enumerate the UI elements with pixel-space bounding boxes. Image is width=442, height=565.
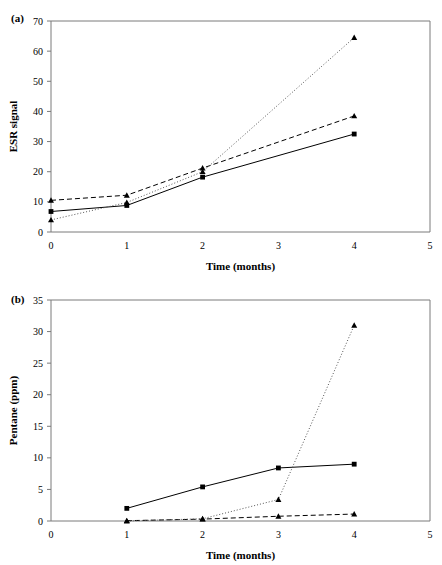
x-tick-label: 1 bbox=[124, 529, 129, 540]
x-tick-label: 5 bbox=[428, 240, 433, 251]
series-line-solid-square bbox=[127, 464, 354, 508]
y-axis-title: ESR signal bbox=[7, 101, 19, 153]
y-tick-label: 10 bbox=[33, 196, 43, 207]
x-tick-label: 0 bbox=[49, 529, 54, 540]
marker-square bbox=[276, 466, 281, 471]
y-tick-label: 35 bbox=[33, 295, 43, 306]
marker-square bbox=[200, 175, 205, 180]
y-tick-label: 10 bbox=[33, 452, 43, 463]
x-tick-label: 1 bbox=[124, 240, 129, 251]
x-axis-title: Time (months) bbox=[206, 260, 275, 273]
marker-triangle bbox=[351, 35, 357, 40]
series-line-dashed-triangle bbox=[51, 116, 354, 200]
marker-triangle bbox=[351, 113, 357, 118]
y-tick-label: 20 bbox=[33, 166, 43, 177]
y-tick-label: 5 bbox=[38, 484, 43, 495]
series-line-dashed-triangle bbox=[127, 514, 354, 521]
marker-square bbox=[124, 506, 129, 511]
figure-root: (a) 010203040506070012345Time (months)ES… bbox=[0, 0, 442, 565]
x-tick-label: 4 bbox=[352, 240, 357, 251]
panel-b: (b) 05101520253035012345Time (months)Pen… bbox=[0, 285, 442, 565]
marker-square bbox=[49, 209, 54, 214]
x-tick-label: 2 bbox=[200, 240, 205, 251]
series-line-dotted-triangle bbox=[127, 325, 354, 521]
marker-triangle bbox=[200, 516, 206, 521]
y-tick-label: 30 bbox=[33, 326, 43, 337]
plot-frame bbox=[51, 21, 430, 232]
panel-a-plot: 010203040506070012345Time (months)ESR si… bbox=[0, 0, 442, 285]
marker-triangle bbox=[48, 217, 54, 222]
plot-frame bbox=[51, 300, 430, 521]
x-tick-label: 0 bbox=[49, 240, 54, 251]
panel-b-plot: 05101520253035012345Time (months)Pentane… bbox=[0, 285, 442, 565]
y-tick-label: 70 bbox=[33, 16, 43, 27]
series-line-dotted-triangle bbox=[51, 38, 354, 220]
y-tick-label: 15 bbox=[33, 421, 43, 432]
marker-square bbox=[200, 485, 205, 490]
y-tick-label: 50 bbox=[33, 76, 43, 87]
marker-square bbox=[352, 462, 357, 467]
marker-triangle bbox=[275, 497, 281, 502]
marker-triangle bbox=[124, 199, 130, 204]
x-tick-label: 3 bbox=[276, 529, 281, 540]
y-tick-label: 0 bbox=[38, 516, 43, 527]
x-axis-title: Time (months) bbox=[206, 549, 275, 562]
y-tick-label: 60 bbox=[33, 46, 43, 57]
y-tick-label: 0 bbox=[38, 227, 43, 238]
x-tick-label: 2 bbox=[200, 529, 205, 540]
y-tick-label: 25 bbox=[33, 358, 43, 369]
x-tick-label: 3 bbox=[276, 240, 281, 251]
x-tick-label: 5 bbox=[428, 529, 433, 540]
marker-square bbox=[352, 132, 357, 137]
y-tick-label: 40 bbox=[33, 106, 43, 117]
y-axis-title: Pentane (ppm) bbox=[7, 375, 20, 445]
marker-triangle bbox=[351, 322, 357, 327]
x-tick-label: 4 bbox=[352, 529, 357, 540]
y-tick-label: 20 bbox=[33, 389, 43, 400]
y-tick-label: 30 bbox=[33, 136, 43, 147]
panel-a: (a) 010203040506070012345Time (months)ES… bbox=[0, 0, 442, 285]
